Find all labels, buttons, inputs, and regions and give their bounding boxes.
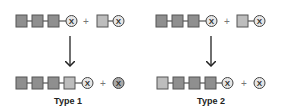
panel-type-2: X + X X + X Type 2 — [156, 15, 265, 106]
glycosyl-transfer-diagram: X + X X + X Type 1 — [0, 0, 282, 109]
plus-sign: + — [224, 16, 230, 27]
x-letter: X — [116, 17, 122, 26]
panel-type-1: X + X X + X Type 1 — [16, 15, 124, 106]
panel-label: Type 1 — [54, 96, 82, 106]
x-letter: X — [69, 17, 75, 26]
x-letter: X — [116, 79, 122, 88]
donor-square-icon — [97, 15, 108, 27]
donor-square-icon — [237, 15, 248, 27]
reactant-chain: X — [156, 15, 217, 27]
chain-square-icon — [16, 15, 27, 27]
added-square-icon — [64, 77, 75, 89]
chain-square-icon — [32, 15, 43, 27]
chain-square-icon — [173, 77, 184, 89]
x-letter: X — [85, 79, 91, 88]
x-letter: X — [257, 17, 263, 26]
product-chain: X — [157, 77, 233, 89]
chain-square-icon — [189, 77, 200, 89]
added-square-icon — [157, 77, 168, 89]
product-chain: X — [16, 77, 93, 89]
chain-square-icon — [16, 77, 27, 89]
plus-sign: + — [100, 78, 106, 89]
chain-square-icon — [48, 15, 59, 27]
x-letter: X — [209, 17, 215, 26]
chain-square-icon — [205, 77, 216, 89]
panel-label: Type 2 — [197, 96, 225, 106]
plus-sign: + — [241, 78, 247, 89]
reactant-chain: X — [16, 15, 77, 27]
donor-unit: X — [237, 15, 265, 27]
chain-square-icon — [172, 15, 183, 27]
x-letter: X — [257, 79, 263, 88]
chain-square-icon — [188, 15, 199, 27]
chain-square-icon — [48, 77, 59, 89]
chain-square-icon — [156, 15, 167, 27]
plus-sign: + — [83, 16, 89, 27]
x-letter: X — [225, 79, 231, 88]
donor-unit: X — [97, 15, 124, 27]
chain-square-icon — [32, 77, 43, 89]
